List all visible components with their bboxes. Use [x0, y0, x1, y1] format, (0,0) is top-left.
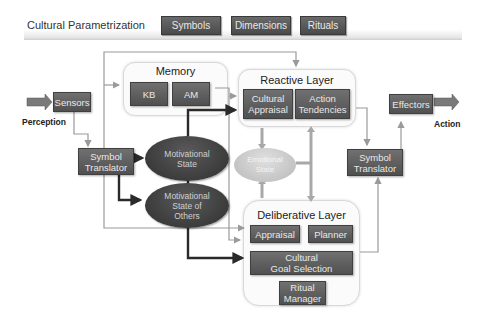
- am-node[interactable]: AM: [172, 82, 210, 106]
- planner-node[interactable]: Planner: [308, 225, 353, 243]
- sensors-node[interactable]: Sensors: [53, 92, 91, 112]
- cgs-line1: Cultural: [285, 252, 318, 263]
- cultural-appraisal-line1: Cultural: [252, 93, 285, 104]
- appraisal-node[interactable]: Appraisal: [250, 225, 300, 243]
- cultural-appraisal-node[interactable]: Cultural Appraisal: [243, 89, 293, 119]
- ritual-manager-line1: Ritual: [290, 282, 314, 293]
- motivational-state-line2: State: [177, 159, 197, 169]
- ritual-manager-node[interactable]: Ritual Manager: [279, 281, 326, 305]
- cultural-appraisal-line2: Appraisal: [248, 104, 288, 115]
- ritual-manager-line2: Manager: [284, 293, 322, 304]
- motivational-state-of-others-node[interactable]: Motivational State of Others: [145, 183, 229, 228]
- action-tendencies-line1: Action: [309, 93, 335, 104]
- action-tendencies-line2: Tendencies: [298, 104, 346, 115]
- action-tendencies-node[interactable]: Action Tendencies: [295, 89, 350, 119]
- symbol-translator-output-line1: Symbol: [359, 152, 391, 163]
- motivational-state-line1: Motivational: [164, 149, 209, 159]
- emotional-state-node[interactable]: Emotional State: [234, 148, 296, 182]
- kb-node[interactable]: KB: [130, 82, 168, 106]
- symbol-translator-output[interactable]: Symbol Translator: [347, 149, 403, 176]
- symbol-translator-input-line1: Symbol: [90, 151, 122, 162]
- cgs-line2: Goal Selection: [271, 263, 333, 274]
- symbol-translator-input[interactable]: Symbol Translator: [78, 148, 134, 175]
- mso-line1: Motivational: [164, 191, 209, 201]
- emotional-state-line1: Emotional: [247, 155, 283, 165]
- motivational-state-node[interactable]: Motivational State: [145, 136, 229, 181]
- symbol-translator-input-line2: Translator: [85, 162, 127, 173]
- mso-line2: State of: [172, 201, 201, 211]
- perception-label: Perception: [22, 117, 66, 127]
- effectors-node[interactable]: Effectors: [389, 94, 433, 114]
- cultural-goal-selection-node[interactable]: Cultural Goal Selection: [250, 251, 353, 275]
- symbol-translator-output-line2: Translator: [354, 163, 396, 174]
- emotional-state-line2: State: [256, 165, 275, 175]
- action-label: Action: [434, 119, 460, 129]
- mso-line3: Others: [174, 211, 200, 221]
